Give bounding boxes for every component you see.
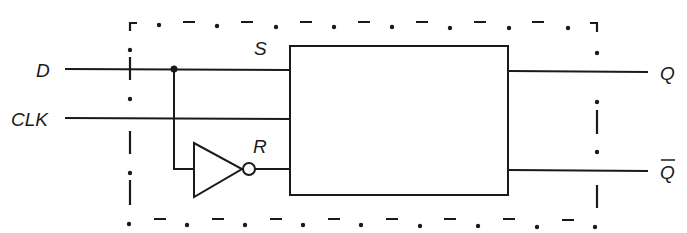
inverter-bubble: [243, 163, 255, 175]
inverter-gate: [194, 143, 255, 197]
clk-input-wire: [65, 118, 290, 119]
d-input-label: D: [36, 60, 50, 81]
sr-flip-flop-block: [290, 46, 508, 195]
q-output-label: Q: [660, 63, 675, 84]
d-flip-flop-diagram: D CLK S R Q Q: [0, 0, 687, 233]
q-output-wire: [508, 71, 648, 72]
r-port-label: R: [253, 136, 267, 157]
enclosure-boundary: [127, 22, 599, 229]
clk-input-label: CLK: [11, 109, 49, 130]
q-bar-output-label: Q: [660, 162, 675, 183]
d-input-wire: [65, 69, 290, 70]
s-port-label: S: [254, 38, 267, 59]
q-bar-output-wire: [508, 170, 648, 171]
